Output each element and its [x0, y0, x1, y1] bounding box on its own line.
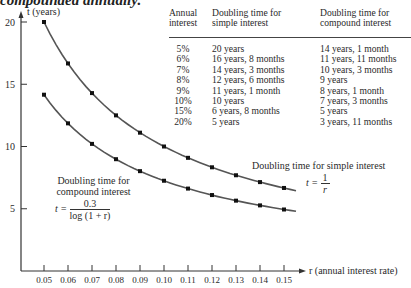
data-point [42, 20, 46, 24]
compound-label-line1: Doubling time for [51, 175, 136, 186]
data-point [90, 91, 94, 95]
x-tick-label: 0.12 [204, 275, 220, 285]
compound-annotation: Doubling time for compound interest [51, 175, 136, 197]
x-tick-label: 0.09 [132, 275, 148, 285]
data-point [114, 157, 118, 161]
x-tick-label: 0.06 [60, 275, 76, 285]
formula-denominator: r [321, 184, 330, 195]
x-tick-label: 0.11 [180, 275, 195, 285]
y-tick-label: 5 [10, 203, 15, 214]
x-axis-label: r (annual interest rate) [309, 265, 398, 277]
formula-lhs: t = [55, 203, 67, 214]
data-point [210, 193, 214, 197]
data-point [90, 142, 94, 146]
data-point [66, 61, 70, 65]
compound-label-line2: compound interest [51, 186, 136, 197]
y-tick-label: 20 [5, 17, 15, 28]
x-tick-label: 0.13 [228, 275, 244, 285]
header-rule [169, 37, 411, 38]
header-line: compound interest [320, 18, 391, 28]
x-tick-label: 0.10 [156, 275, 172, 285]
x-tick-label: 0.05 [36, 275, 52, 285]
data-point [282, 186, 286, 190]
data-point [138, 169, 142, 173]
col-header-simple: Doubling time for simple interest [212, 8, 281, 29]
data-point [162, 179, 166, 183]
formula-numerator: 1 [321, 173, 330, 184]
data-point [258, 180, 262, 184]
x-tick-label: 0.15 [276, 275, 292, 285]
data-point [114, 113, 118, 117]
simple-formula: t = 1 r [306, 173, 330, 195]
col-header-compound: Doubling time for compound interest [320, 8, 391, 29]
data-point [258, 203, 262, 207]
formula-fraction: 1 r [321, 173, 330, 195]
data-point [210, 165, 214, 169]
data-point [282, 207, 286, 211]
formula-fraction: 0.3 log (1 + r) [70, 199, 111, 221]
y-axis-arrow-icon [19, 11, 24, 18]
table-cell: 3 years, 11 months [320, 117, 392, 127]
x-axis-arrow-icon [299, 269, 306, 274]
formula-denominator: log (1 + r) [70, 210, 111, 221]
simple-annotation: Doubling time for simple interest [252, 160, 385, 171]
table-cell: 5 years [212, 117, 239, 127]
data-point [138, 131, 142, 135]
table-cell: 20% [165, 117, 201, 127]
data-point [162, 145, 166, 149]
y-tick-label: 10 [5, 141, 15, 152]
data-point [42, 93, 46, 97]
data-point [186, 187, 190, 191]
col-header-annual-interest: Annual interest [165, 8, 201, 29]
data-point [186, 156, 190, 160]
header-line: interest [165, 18, 201, 28]
compound-formula: t = 0.3 log (1 + r) [55, 199, 110, 221]
x-tick-label: 0.08 [108, 275, 124, 285]
header-line: simple interest [212, 18, 281, 28]
data-point [66, 121, 70, 125]
formula-numerator: 0.3 [70, 199, 111, 210]
y-tick-label: 15 [5, 79, 15, 90]
data-point [234, 173, 238, 177]
data-point [234, 199, 238, 203]
x-tick-label: 0.14 [252, 275, 268, 285]
y-axis-label: t (years) [27, 6, 60, 18]
x-tick-label: 0.07 [84, 275, 100, 285]
formula-lhs: t = [306, 177, 318, 188]
